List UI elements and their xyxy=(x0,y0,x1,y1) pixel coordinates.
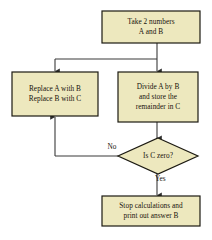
node-decision-shape xyxy=(118,138,198,174)
node-replace-shape xyxy=(12,72,98,116)
flowchart-diagram: Take 2 numbers A and B Replace A with B … xyxy=(0,0,212,240)
edge-label-no: No xyxy=(100,143,124,150)
edge-label-yes: Yes xyxy=(155,175,177,182)
flowchart-canvas xyxy=(0,0,212,240)
node-divide-shape xyxy=(118,72,198,122)
node-stop-shape xyxy=(102,196,200,226)
node-start-shape xyxy=(102,11,200,43)
